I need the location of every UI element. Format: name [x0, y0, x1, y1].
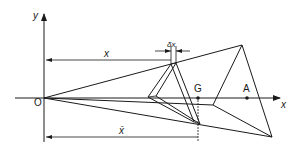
edge-o-bottom	[44, 98, 272, 137]
base-edge-top-back	[213, 45, 242, 105]
y-axis-label: y	[32, 10, 39, 21]
pyramid	[44, 45, 272, 137]
pyramid-centroid-diagram: y x O G A x δx	[0, 0, 294, 152]
point-a	[245, 96, 249, 100]
axes: y x O	[15, 10, 287, 142]
origin-label: O	[34, 97, 42, 108]
dimensions: x δx x̄	[46, 40, 198, 141]
slice-front-face	[148, 64, 194, 122]
delta-x-label: δx	[167, 40, 176, 49]
point-a-label: A	[243, 83, 250, 94]
x-dimension-label: x	[103, 48, 110, 59]
slice-element	[148, 63, 200, 124]
centroid-point	[196, 96, 200, 100]
x-axis-label: x	[280, 99, 287, 110]
centroid-label: G	[194, 83, 202, 94]
edge-o-top	[44, 45, 242, 98]
x-bar-dimension-label: x̄	[118, 125, 125, 136]
edge-o-back	[44, 98, 213, 105]
